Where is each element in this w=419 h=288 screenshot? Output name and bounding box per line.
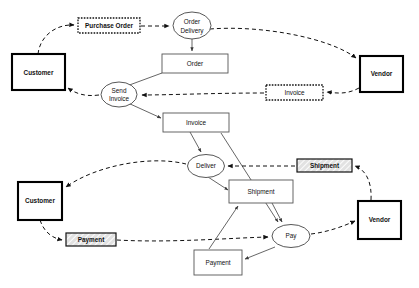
node-pay[interactable]: Pay (272, 225, 310, 248)
node-layer: Customer Purchase Order Order Order Vend… (12, 12, 403, 275)
node-payment-message[interactable]: Payment (66, 233, 116, 246)
edge-send-invoice-to-customer (68, 88, 99, 96)
edge-invoice-message-to-send-invoice (142, 93, 264, 95)
node-invoice-message[interactable]: Invoice (266, 85, 323, 100)
edge-customer-to-purchase-order (38, 25, 74, 54)
node-invoice-object[interactable]: Invoice (163, 113, 229, 132)
edge-deliver-to-shipment-object (208, 177, 228, 190)
process-diagram: Customer Purchase Order Order Order Vend… (0, 0, 419, 288)
node-vendor-top[interactable]: Vendor (360, 56, 403, 92)
node-deliver[interactable]: Deliver (188, 155, 225, 178)
edge-vendor-to-invoice-message (327, 88, 359, 93)
edge-invoice-object-to-deliver (190, 132, 201, 152)
diagram-canvas: Customer Purchase Order Order Order Vend… (0, 0, 419, 288)
node-send-invoice[interactable]: Send (101, 82, 137, 107)
edge-deliver-to-customer-bottom (66, 161, 186, 187)
node-customer-top[interactable]: Customer (12, 54, 65, 90)
edge-vendor-bottom-to-shipment-message (355, 166, 371, 200)
edge-send-invoice-to-invoice-object (128, 103, 161, 118)
edge-shipment-object-to-pay (272, 203, 282, 222)
edge-pay-to-vendor-bottom (311, 221, 355, 234)
edge-customer-bottom-to-payment-message (40, 220, 62, 240)
node-customer-bottom[interactable]: Customer (18, 182, 62, 220)
edge-invoice-object-to-pay (221, 133, 278, 222)
node-vendor-bottom[interactable]: Vendor (358, 201, 401, 239)
edge-payment-object-to-shipment-object (209, 206, 238, 249)
edge-pay-to-payment-object (245, 247, 275, 259)
node-shipment-message[interactable]: Shipment (297, 159, 352, 172)
node-order[interactable]: Order (162, 54, 228, 73)
node-order-delivery[interactable]: Order (173, 12, 211, 39)
node-purchase-order[interactable]: Purchase Order (78, 18, 140, 33)
edge-payment-message-to-pay (117, 237, 268, 241)
edge-order-delivery-to-vendor (210, 28, 356, 58)
node-shipment-object[interactable]: Shipment (229, 180, 293, 203)
node-payment-object[interactable]: Payment (194, 250, 242, 275)
